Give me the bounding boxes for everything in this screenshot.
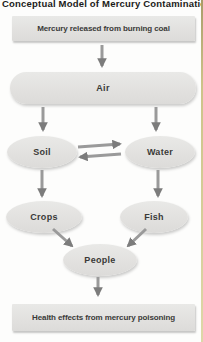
- diagram-canvas: Conceptual Model of Mercury Contaminatio…: [0, 0, 203, 342]
- node-soil-label: Soil: [33, 147, 51, 157]
- node-health-effects-label: Health effects from mercury poisoning: [32, 313, 175, 322]
- arrow-water-to-soil: [80, 154, 121, 157]
- node-crops-label: Crops: [30, 212, 58, 222]
- node-people-label: People: [84, 255, 115, 265]
- arrow-layer: [0, 0, 203, 342]
- node-mercury-source: Mercury released from burning coal: [12, 16, 195, 41]
- node-water-label: Water: [147, 147, 173, 157]
- node-mercury-source-label: Mercury released from burning coal: [37, 24, 170, 33]
- node-soil: Soil: [7, 136, 77, 168]
- node-air-label: Air: [96, 83, 109, 93]
- diagram-title: Conceptual Model of Mercury Contaminatio…: [2, 0, 203, 9]
- node-water: Water: [125, 136, 195, 168]
- page-edge-strip: [201, 0, 203, 342]
- node-people: People: [63, 244, 137, 276]
- node-crops: Crops: [6, 201, 82, 233]
- arrow-soil-to-water: [78, 144, 120, 147]
- node-health-effects: Health effects from mercury poisoning: [12, 304, 195, 331]
- node-fish-label: Fish: [144, 212, 164, 222]
- node-fish: Fish: [120, 201, 188, 233]
- node-air: Air: [10, 72, 196, 104]
